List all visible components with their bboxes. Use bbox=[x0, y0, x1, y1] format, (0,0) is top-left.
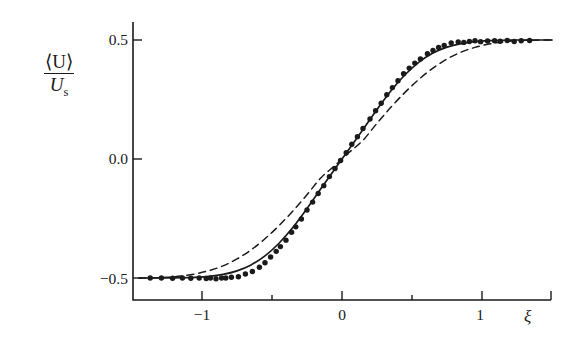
figure-container: ⟨U⟩ Us 0.5 0.0 −0.5 −1 0 1 ξ bbox=[0, 0, 573, 349]
x-tick-label-1: 0 bbox=[322, 306, 362, 324]
data-point bbox=[360, 126, 365, 131]
data-point bbox=[338, 158, 343, 163]
data-point bbox=[505, 38, 510, 43]
data-point bbox=[159, 275, 164, 280]
data-point bbox=[456, 39, 461, 44]
data-point bbox=[208, 275, 213, 280]
data-point bbox=[310, 199, 315, 204]
data-point bbox=[316, 191, 321, 196]
data-point bbox=[379, 101, 384, 106]
data-point bbox=[321, 183, 326, 188]
data-point bbox=[250, 269, 255, 274]
data-point bbox=[418, 56, 423, 61]
data-point bbox=[262, 260, 267, 265]
data-point bbox=[180, 275, 185, 280]
data-point bbox=[229, 275, 234, 280]
data-point bbox=[390, 85, 395, 90]
x-tick-label-2: 1 bbox=[460, 306, 500, 324]
data-point bbox=[243, 271, 248, 276]
data-point bbox=[425, 51, 430, 56]
data-point bbox=[384, 92, 389, 97]
data-point bbox=[293, 224, 298, 229]
data-point bbox=[170, 276, 175, 281]
data-point bbox=[188, 276, 193, 281]
data-point bbox=[236, 274, 241, 279]
data-point bbox=[512, 39, 517, 44]
data-point bbox=[519, 38, 524, 43]
curve-model-solid bbox=[139, 40, 552, 278]
data-point bbox=[355, 134, 360, 139]
y-tick-label-2: −0.5 bbox=[82, 270, 128, 288]
data-point bbox=[268, 254, 273, 259]
data-point bbox=[373, 108, 378, 113]
data-point bbox=[412, 60, 417, 65]
data-point bbox=[289, 230, 294, 235]
data-point bbox=[442, 43, 447, 48]
x-tick-label-0: −1 bbox=[182, 306, 222, 324]
data-point bbox=[197, 275, 202, 280]
data-point bbox=[449, 40, 454, 45]
data-point bbox=[299, 216, 304, 221]
data-point bbox=[148, 275, 153, 280]
data-point bbox=[461, 40, 466, 45]
data-point bbox=[367, 116, 372, 121]
y-tick-label-0: 0.5 bbox=[88, 31, 128, 49]
data-point bbox=[332, 166, 337, 171]
curve-model-dashed bbox=[139, 40, 552, 278]
data-point bbox=[213, 276, 218, 281]
axis-ticks bbox=[133, 40, 551, 300]
data-point bbox=[278, 244, 283, 249]
data-point bbox=[527, 38, 532, 43]
data-point bbox=[344, 150, 349, 155]
data-point bbox=[498, 38, 503, 43]
data-point bbox=[395, 78, 400, 83]
data-point bbox=[274, 249, 279, 254]
data-point bbox=[327, 174, 332, 179]
plot-area bbox=[0, 0, 573, 349]
data-point bbox=[223, 275, 228, 280]
data-point bbox=[407, 65, 412, 70]
data-point bbox=[492, 38, 497, 43]
scatter-points bbox=[148, 38, 533, 282]
data-point bbox=[430, 48, 435, 53]
data-point bbox=[283, 237, 288, 242]
data-point bbox=[472, 38, 477, 43]
data-point bbox=[401, 71, 406, 76]
data-point bbox=[436, 45, 441, 50]
data-point bbox=[349, 142, 354, 147]
data-point bbox=[478, 39, 483, 44]
x-axis-label: ξ bbox=[524, 307, 531, 327]
data-point bbox=[304, 207, 309, 212]
data-point bbox=[485, 38, 490, 43]
data-point bbox=[467, 39, 472, 44]
data-point bbox=[257, 265, 262, 270]
y-tick-label-1: 0.0 bbox=[88, 150, 128, 168]
